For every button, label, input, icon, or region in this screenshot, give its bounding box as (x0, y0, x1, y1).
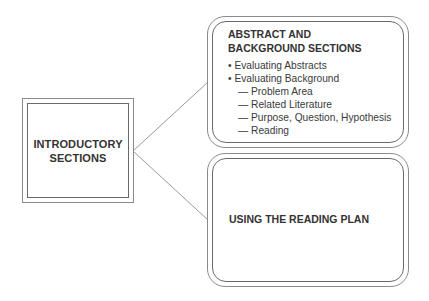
reading-plan-title: USING THE READING PLAN (229, 213, 369, 225)
list-item: • Evaluating Abstracts (228, 59, 408, 72)
item-text: Reading (251, 125, 289, 136)
abstract-box-title: ABSTRACT AND BACKGROUND SECTIONS (228, 27, 408, 55)
bullet-marker: • (228, 73, 232, 84)
abstract-box-content: ABSTRACT AND BACKGROUND SECTIONS • Evalu… (228, 27, 408, 137)
connector-to-reading-plan (133, 151, 208, 220)
bullet-marker: • (228, 60, 232, 71)
abstract-title-line2: BACKGROUND SECTIONS (228, 41, 408, 55)
abstract-title-line1: ABSTRACT AND (228, 27, 408, 41)
item-text: Evaluating Abstracts (234, 60, 326, 71)
item-text: Evaluating Background (234, 73, 339, 84)
list-subitem: — Purpose, Question, Hypothesis (228, 111, 408, 124)
dash-marker: — (238, 125, 248, 136)
list-subitem: — Reading (228, 124, 408, 137)
root-label: INTRODUCTORY SECTIONS (33, 137, 122, 165)
dash-marker: — (238, 112, 248, 123)
list-subitem: — Problem Area (228, 85, 408, 98)
root-label-line1: INTRODUCTORY (33, 137, 122, 151)
abstract-item-list: • Evaluating Abstracts • Evaluating Back… (228, 59, 408, 137)
list-item: • Evaluating Background (228, 72, 408, 85)
item-text: Problem Area (251, 86, 313, 97)
root-box: INTRODUCTORY SECTIONS (27, 103, 129, 198)
root-label-line2: SECTIONS (33, 151, 122, 165)
item-text: Purpose, Question, Hypothesis (251, 112, 391, 123)
dash-marker: — (238, 86, 248, 97)
item-text: Related Literature (251, 99, 332, 110)
connector-to-abstract (133, 82, 208, 151)
list-subitem: — Related Literature (228, 98, 408, 111)
dash-marker: — (238, 99, 248, 110)
